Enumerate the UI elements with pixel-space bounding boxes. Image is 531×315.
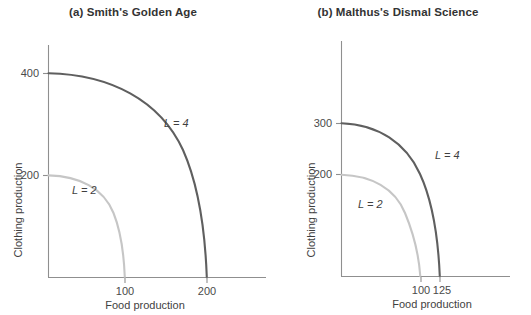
panel-a-xlabel-100: 100 [116,285,134,297]
panel-a-annotation-l4: L = 4 [164,117,189,129]
panel-smiths-golden-age: (a) Smith's Golden Age 400 200 100 200 [0,0,266,315]
panel-b-x-axis-title: Food production [392,298,472,310]
panel-b-curve-l2 [342,175,421,277]
panel-a-annotation-l2: L = 2 [72,184,97,196]
panel-b-xlabel-125: 125 [433,284,451,296]
panel-a-curve-l4 [49,73,207,277]
panel-malthuss-dismal-science: (b) Malthus's Dismal Science 300 200 100… [265,0,531,315]
panel-a-xlabel-200: 200 [198,285,216,297]
panel-a-x-axis-title: Food production [105,299,185,311]
panel-b-y-axis-title: Clothing production [305,163,317,258]
panel-b-plot: 300 200 100 125 Food production Clothing… [265,0,531,315]
panel-b-xlabel-100: 100 [412,284,430,296]
panel-a-y-axis-title: Clothing production [12,163,24,258]
panel-a-ylabel-400: 400 [21,67,39,79]
figure-container: (a) Smith's Golden Age 400 200 100 200 [0,0,531,315]
panel-b-curve-l4 [342,123,440,276]
panel-a-plot: 400 200 100 200 Food production Clothing… [0,0,266,315]
panel-b-ylabel-300: 300 [314,117,332,129]
panel-b-annotation-l4: L = 4 [435,149,460,161]
panel-b-annotation-l2: L = 2 [358,198,383,210]
